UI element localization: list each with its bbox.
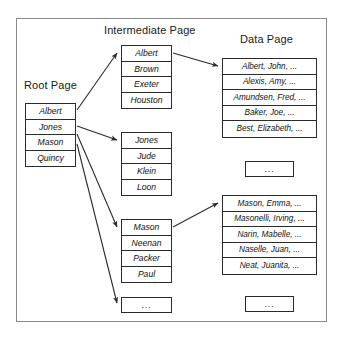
data-page-entry: Amundsen, Fred, ... bbox=[223, 90, 316, 106]
data-page-entry: Mason, Emma, ... bbox=[223, 196, 316, 212]
data-page-entry: Neat, Juanita, ... bbox=[223, 258, 316, 274]
data-page-entry: Masonelli, Irving, ... bbox=[223, 212, 316, 228]
intermediate-page-entry: Exeter bbox=[122, 77, 171, 93]
intermediate-page-entry: Jones bbox=[122, 133, 171, 149]
data-page-entry: Alexis, Amy, ... bbox=[223, 75, 316, 91]
root-page-entry: Jones bbox=[26, 120, 75, 136]
data-page-entry: Baker, Joe, ... bbox=[223, 106, 316, 122]
data-page-more-node: ... bbox=[245, 296, 294, 312]
heading-root-page: Root Page bbox=[24, 79, 77, 91]
intermediate-page-node: Mason Neenan Packer Paul bbox=[121, 219, 172, 283]
intermediate-page-entry: Mason bbox=[122, 220, 171, 236]
intermediate-page-entry: Paul bbox=[122, 267, 171, 283]
data-page-node: Mason, Emma, ... Masonelli, Irving, ... … bbox=[222, 195, 317, 275]
data-page-entry: Best, Elizabeth, ... bbox=[223, 121, 316, 137]
intermediate-page-entry: Neenan bbox=[122, 236, 171, 252]
intermediate-page-entry: Loon bbox=[122, 180, 171, 196]
intermediate-page-entry: Jude bbox=[122, 149, 171, 165]
intermediate-page-node: Jones Jude Klein Loon bbox=[121, 132, 172, 196]
data-page-entry: Narin, Mabelle, ... bbox=[223, 227, 316, 243]
root-page-entry: Albert bbox=[26, 104, 75, 120]
intermediate-page-node: Albert Brown Exeter Houston bbox=[121, 45, 172, 109]
intermediate-page-entry: Houston bbox=[122, 93, 171, 109]
root-page-node: Albert Jones Mason Quincy bbox=[25, 103, 76, 167]
heading-intermediate-page: Intermediate Page bbox=[104, 24, 196, 36]
root-page-entry: Mason bbox=[26, 135, 75, 151]
intermediate-page-entry: Packer bbox=[122, 251, 171, 267]
intermediate-page-entry: Albert bbox=[122, 46, 171, 62]
data-page-more-node: ... bbox=[245, 161, 294, 177]
intermediate-page-entry: Klein bbox=[122, 164, 171, 180]
root-page-entry: Quincy bbox=[26, 151, 75, 167]
intermediate-page-more-node: ... bbox=[121, 297, 172, 313]
data-page-entry: Naselle, Juan, ... bbox=[223, 243, 316, 259]
heading-data-page: Data Page bbox=[240, 33, 293, 45]
diagram-canvas: Intermediate Page Data Page Root Page Al… bbox=[0, 0, 343, 337]
data-page-node: Albert, John, ... Alexis, Amy, ... Amund… bbox=[222, 58, 317, 138]
intermediate-page-entry: Brown bbox=[122, 62, 171, 78]
data-page-entry: Albert, John, ... bbox=[223, 59, 316, 75]
